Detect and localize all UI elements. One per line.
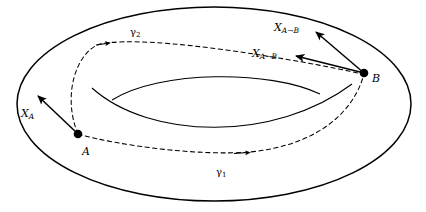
path-gamma2	[71, 42, 362, 134]
point-b-marker	[360, 69, 369, 78]
vector-label-x-ab-lower-base: X	[252, 47, 260, 60]
torus-outer-boundary	[17, 7, 411, 201]
vector-label-x-a-base: X	[21, 107, 29, 120]
torus-inner-hole-upper-arc	[112, 77, 320, 100]
point-a-marker	[74, 130, 83, 139]
path-label-gamma2: γ2	[130, 27, 140, 39]
point-label-b: B	[372, 73, 380, 84]
vector-label-x-ab-lower-subscript: A→B	[260, 52, 277, 61]
path-gamma1	[78, 74, 364, 153]
subscript-to-b: B	[294, 26, 300, 35]
vector-arrow-x-a	[38, 96, 78, 134]
vector-label-x-ab-lower: XA→B	[252, 48, 277, 61]
torus-parallel-transport-figure: XA A B XA→B XA→B γ2 γ1	[0, 0, 426, 212]
vector-label-x-ab-upper: XA→B	[274, 22, 299, 35]
vector-label-x-ab-upper-base: X	[274, 21, 282, 34]
vector-label-x-a: XA	[21, 108, 34, 121]
path-gamma2-direction-arrow	[96, 43, 108, 45]
vector-label-x-a-subscript: A	[29, 112, 34, 121]
diagram-canvas	[0, 0, 426, 212]
subscript-to-b: B	[272, 52, 278, 61]
path-label-gamma2-subscript: 2	[136, 31, 140, 39]
path-label-gamma1-subscript: 1	[222, 171, 226, 179]
point-label-a: A	[82, 146, 90, 157]
vector-label-x-ab-upper-subscript: A→B	[282, 26, 299, 35]
path-label-gamma1: γ1	[216, 167, 226, 179]
